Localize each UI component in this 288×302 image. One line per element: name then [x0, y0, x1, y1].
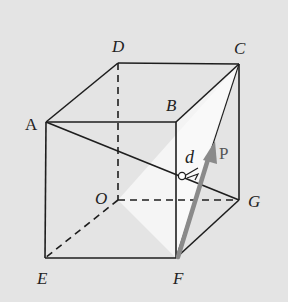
- vertex-label-f: F: [173, 270, 183, 287]
- cube-diagram: D C B A d P O G E F: [0, 0, 288, 302]
- edge-ae: [45, 122, 46, 258]
- vertex-label-c: C: [234, 40, 245, 57]
- vector-label-p: P: [219, 145, 228, 162]
- vertex-label-o: O: [95, 190, 107, 207]
- edge-ad: [46, 63, 118, 122]
- edge-dc: [118, 63, 239, 64]
- foot-point-marker: [178, 172, 185, 179]
- edge-oe-hidden: [45, 200, 118, 258]
- vertex-label-d: D: [112, 38, 124, 55]
- distance-label-d: d: [185, 148, 194, 166]
- vertex-label-a: A: [25, 116, 37, 133]
- vertex-label-e: E: [37, 270, 47, 287]
- vertex-label-b: B: [166, 97, 176, 114]
- vertex-label-g: G: [248, 193, 260, 210]
